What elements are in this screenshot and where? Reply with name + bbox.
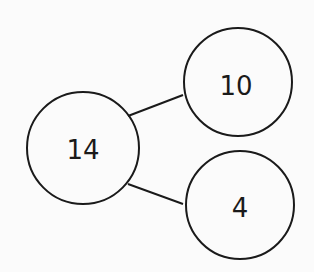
connector-line-bottom xyxy=(128,184,183,204)
part-value-bottom: 4 xyxy=(232,193,249,223)
part-value-top: 10 xyxy=(219,71,252,101)
whole-value: 14 xyxy=(66,135,99,165)
connector-line-top xyxy=(128,95,183,116)
number-bond-diagram: 14 10 4 xyxy=(0,0,314,272)
